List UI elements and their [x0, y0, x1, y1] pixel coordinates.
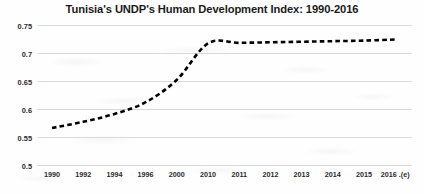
x-axis-tick-label: 1996 — [138, 170, 154, 179]
x-axis-tick-label: 2016 .(e) — [381, 170, 410, 179]
y-axis-tick-label: 0.75 — [4, 21, 32, 30]
x-axis-tick-label: 1994 — [106, 170, 122, 179]
chart-container: Tunisia's UNDP's Human Development Index… — [0, 0, 424, 194]
x-axis-tick-label: 2013 — [294, 170, 310, 179]
y-axis-tick-label: 0.5 — [4, 161, 32, 170]
x-axis-tick-label: 1990 — [44, 170, 60, 179]
x-axis-tick-label: 2015 — [356, 170, 372, 179]
y-axis-tick-label: 0.6 — [4, 105, 32, 114]
plot-area — [0, 0, 424, 194]
y-axis-tick-label: 0.55 — [4, 133, 32, 142]
x-axis-tick-label: 2000 — [169, 170, 185, 179]
y-axis-tick-label: 0.65 — [4, 77, 32, 86]
y-axis-tick-label: 0.7 — [4, 49, 32, 58]
x-axis-tick-label: 2011 — [231, 170, 247, 179]
x-axis-tick-label: 1992 — [75, 170, 91, 179]
gridlines-group — [38, 26, 413, 166]
hdi-line-series — [52, 40, 395, 128]
x-axis-tick-label: 2014 — [325, 170, 341, 179]
x-axis-tick-label: 2012 — [262, 170, 278, 179]
x-axis-tick-label: 2010 — [200, 170, 216, 179]
